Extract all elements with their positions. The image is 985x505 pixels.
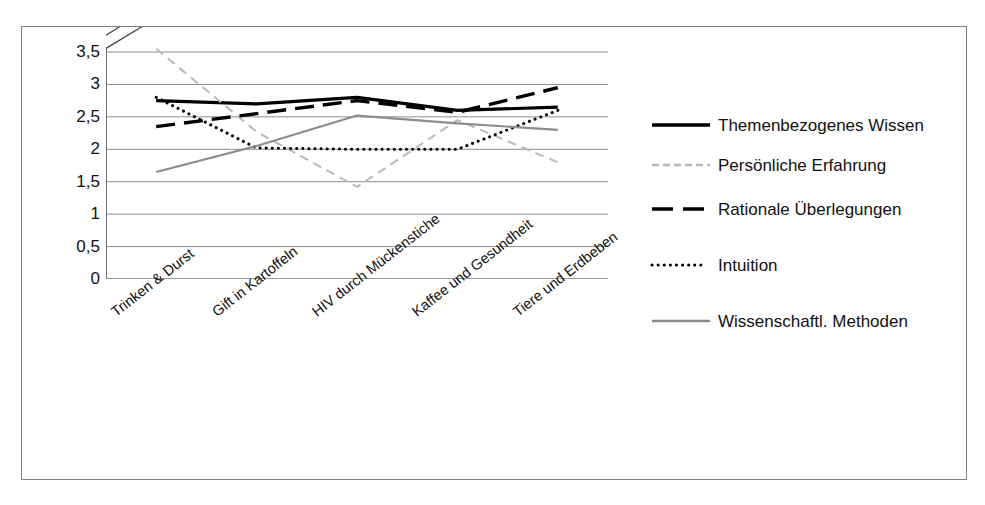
legend-swatch-dashed-line-icon (650, 155, 712, 175)
y-tick-label: 0,5 (40, 238, 100, 255)
y-tick-label: 0 (40, 270, 100, 287)
y-tick-label: 2 (40, 140, 100, 157)
plot-area (106, 27, 608, 279)
legend-label: Persönliche Erfahrung (718, 155, 886, 176)
chart-figure: 00,511,522,533,5 Trinken & DurstGift in … (21, 26, 967, 480)
axis-break-icon (106, 27, 148, 52)
legend-swatch-gray-line-icon (650, 311, 712, 331)
series-line-2 (156, 88, 558, 127)
legend-item-wissenschaftl-methoden[interactable]: Wissenschaftl. Methoden (650, 311, 950, 333)
y-tick-label: 3,5 (40, 43, 100, 60)
legend-item-intuition[interactable]: Intuition (650, 255, 950, 277)
series-line-3 (156, 97, 558, 149)
legend-label: Themenbezogenes Wissen (718, 115, 924, 136)
y-tick-label: 3 (40, 75, 100, 92)
legend-label: Intuition (718, 255, 778, 276)
legend-item-themenbezogenes-wissen[interactable]: Themenbezogenes Wissen (650, 115, 950, 137)
legend-label: Wissenschaftl. Methoden (718, 311, 908, 332)
chart-legend: Themenbezogenes Wissen Persönliche Erfah… (650, 115, 950, 351)
y-tick-label: 1 (40, 205, 100, 222)
series-line-4 (156, 116, 558, 172)
y-tick-label: 1,5 (40, 173, 100, 190)
y-tick-label: 2,5 (40, 108, 100, 125)
legend-swatch-long-dash-line-icon (650, 199, 712, 219)
plot-svg (106, 27, 608, 279)
legend-item-rationale-ueberlegungen[interactable]: Rationale Überlegungen (650, 199, 950, 221)
legend-item-persoenliche-erfahrung[interactable]: Persönliche Erfahrung (650, 155, 950, 177)
legend-swatch-dotted-line-icon (650, 255, 712, 275)
legend-swatch-solid-line-icon (650, 115, 712, 135)
legend-label: Rationale Überlegungen (718, 199, 901, 220)
y-axis-tick-labels: 00,511,522,533,5 (34, 27, 100, 279)
